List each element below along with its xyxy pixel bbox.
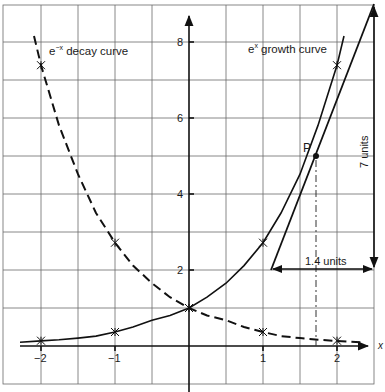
y-tick-label: 4	[177, 188, 183, 200]
horizontal-dimension-label: 1.4 units	[305, 255, 347, 267]
point-p	[313, 153, 319, 159]
growth-curve-label: ex growth curve	[248, 42, 327, 55]
x-tick-label: 2	[334, 352, 340, 364]
x-tick-label: −2	[34, 352, 47, 364]
point-p-label: P	[303, 141, 311, 155]
growth-rest: growth curve	[258, 43, 327, 55]
vertical-dimension-label: 7 units	[358, 135, 370, 168]
cross-marker	[37, 61, 45, 69]
decay-curve	[34, 36, 362, 342]
y-tick-label: 8	[177, 36, 183, 48]
decay-curve-label: e−x decay curve	[49, 44, 128, 57]
cross-marker	[259, 239, 267, 247]
x-axis-label: x	[377, 340, 384, 351]
cross-marker	[333, 61, 341, 69]
decay-rest: decay curve	[63, 45, 128, 57]
y-tick-label: 6	[177, 112, 183, 124]
x-tick-label: −1	[108, 352, 121, 364]
y-tick-label: 2	[177, 264, 183, 276]
cross-marker	[111, 239, 119, 247]
x-tick-label: 1	[260, 352, 266, 364]
exponential-curves-chart: 2 4 6 8 −2 −1 1 2 x P 1.4 units 7 units …	[0, 0, 385, 392]
